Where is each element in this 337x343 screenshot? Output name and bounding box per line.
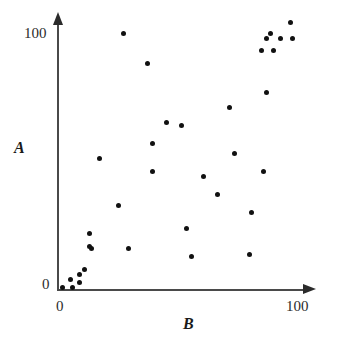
data-point (87, 231, 92, 236)
data-point (97, 156, 102, 161)
data-point (271, 48, 276, 53)
data-point (247, 252, 252, 257)
data-point (201, 174, 206, 179)
data-point (288, 20, 293, 25)
data-point (87, 244, 92, 249)
data-point (290, 36, 295, 41)
data-point (70, 285, 75, 290)
data-point (77, 280, 82, 285)
data-point (189, 254, 194, 259)
data-point (259, 48, 264, 53)
data-point (261, 169, 266, 174)
data-point (232, 151, 237, 156)
data-point (60, 285, 65, 290)
data-point (121, 31, 126, 36)
data-point (184, 226, 189, 231)
data-points-layer (0, 0, 337, 343)
data-point (126, 246, 131, 251)
data-point (150, 141, 155, 146)
data-point (164, 120, 169, 125)
data-point (264, 90, 269, 95)
data-point (264, 36, 269, 41)
scatter-plot-figure: 100 0 0 100 A B (0, 0, 337, 343)
data-point (68, 277, 73, 282)
data-point (150, 169, 155, 174)
data-point (227, 105, 232, 110)
data-point (215, 192, 220, 197)
data-point (268, 31, 273, 36)
data-point (249, 210, 254, 215)
data-point (278, 36, 283, 41)
data-point (145, 61, 150, 66)
data-point (82, 267, 87, 272)
data-point (116, 203, 121, 208)
data-point (77, 272, 82, 277)
data-point (179, 123, 184, 128)
